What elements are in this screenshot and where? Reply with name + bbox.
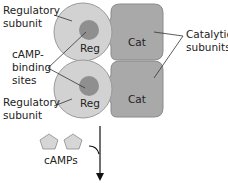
reg-top-label: Reg [80, 42, 100, 54]
camp-molecules [40, 134, 82, 149]
camp-binding-sites-label: cAMP- binding sites [12, 48, 54, 86]
cat-top-label: Cat [128, 36, 146, 48]
arrow-down-icon [89, 126, 104, 181]
cat-bottom-label: Cat [128, 93, 146, 105]
camp-binding-site-top [79, 20, 99, 40]
regulatory-subunit-bottom [54, 60, 112, 118]
reg-bottom-label: Reg [80, 97, 100, 109]
camps-label: cAMPs [44, 154, 78, 166]
pka-diagram: Reg Cat Reg Cat Regulatory subunit cAMP-… [0, 0, 228, 183]
catalytic-subunits-label: Catalytic subunits [186, 28, 228, 53]
camp-pentagon-1 [40, 134, 58, 149]
catalytic-subunit-bottom [106, 61, 163, 117]
camp-pentagon-2 [64, 134, 82, 149]
regulatory-subunit-bottom-label: Regulatory subunit [3, 96, 63, 121]
